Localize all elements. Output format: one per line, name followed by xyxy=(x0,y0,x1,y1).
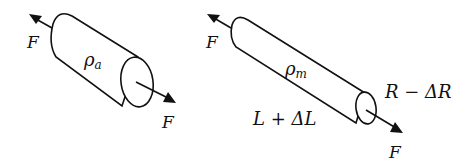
arrowhead-icon xyxy=(390,122,403,133)
arrowhead-icon xyxy=(207,14,220,23)
cylinder-after: F F ρm L + ΔL R − ΔR xyxy=(205,14,452,162)
cylinder-before: F F ρa xyxy=(26,14,176,132)
arrowhead-icon xyxy=(29,14,42,24)
force-label-left-before: F xyxy=(26,32,40,52)
length-label: L + ΔL xyxy=(252,108,316,129)
force-label-right-before: F xyxy=(161,112,175,132)
strain-diagram: F F ρa F F ρm L + ΔL R − ΔR xyxy=(0,0,469,163)
force-label-right-after: F xyxy=(388,142,402,162)
radius-label: R − ΔR xyxy=(384,81,452,102)
force-label-left-after: F xyxy=(205,32,219,52)
arrowhead-icon xyxy=(163,92,176,103)
